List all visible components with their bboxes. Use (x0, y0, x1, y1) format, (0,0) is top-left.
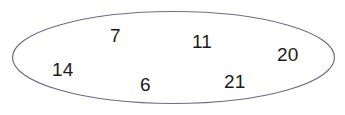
set-element-3: 14 (52, 60, 74, 79)
set-element-2: 20 (277, 45, 299, 64)
set-diagram-figure: 7 11 20 14 6 21 (0, 0, 345, 115)
set-element-1: 11 (192, 32, 212, 51)
set-element-0: 7 (110, 26, 121, 45)
set-element-4: 6 (140, 75, 151, 94)
set-element-5: 21 (224, 72, 246, 91)
